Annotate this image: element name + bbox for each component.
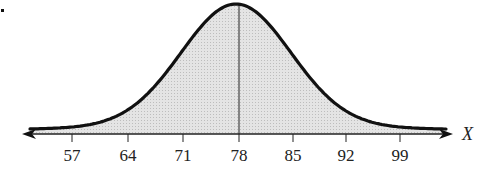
x-axis-ticks: 57647178859299	[64, 134, 409, 165]
x-axis-label: X	[461, 124, 474, 144]
tick-label: 99	[392, 146, 409, 165]
tick-label: 64	[120, 146, 138, 165]
tick-label: 85	[285, 146, 302, 165]
tick-label: 57	[64, 146, 82, 165]
tick-label: 78	[231, 146, 248, 165]
tick-label: 71	[175, 146, 192, 165]
normal-distribution-chart: 57647178859299 X	[0, 0, 477, 170]
stray-dot	[1, 9, 4, 12]
tick-label: 92	[338, 146, 355, 165]
